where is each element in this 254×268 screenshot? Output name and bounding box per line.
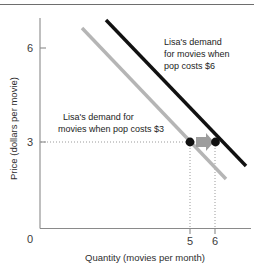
annotation-gray-demand: Lisa's demand for movies when pop costs …: [58, 112, 164, 134]
guide-lines-group: [41, 142, 216, 228]
axis-titles-group: Price (dollars per movie) Quantity (movi…: [8, 77, 205, 263]
x-tick-label-6: 6: [212, 235, 218, 247]
annotation-black-line-2: for movies when: [164, 49, 230, 59]
point-marker-quantity-5: [186, 138, 195, 147]
x-tick-label-5: 5: [187, 235, 193, 247]
chart-canvas: 6 3 0 5 6 Price (dollars per movie) Quan…: [0, 0, 254, 268]
y-tick-label-3: 3: [27, 136, 33, 148]
annotation-gray-line-2: movies when pop costs $3: [58, 124, 164, 134]
annotation-black-demand: Lisa's demand for movies when pop costs …: [164, 37, 230, 71]
y-tick-label-6: 6: [27, 42, 33, 54]
demand-shift-chart-figure: 6 3 0 5 6 Price (dollars per movie) Quan…: [0, 0, 254, 268]
annotation-black-line-3: pop costs $6: [164, 61, 215, 71]
y-axis-title: Price (dollars per movie): [8, 77, 19, 180]
annotation-gray-line-1: Lisa's demand for: [63, 112, 134, 122]
origin-label: 0: [27, 233, 33, 245]
point-marker-quantity-6: [211, 138, 220, 147]
annotation-black-line-1: Lisa's demand: [164, 37, 222, 47]
x-axis-title: Quantity (movies per month): [85, 252, 205, 263]
